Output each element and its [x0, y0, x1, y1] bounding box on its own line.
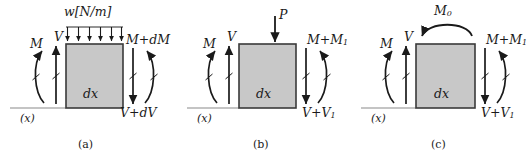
- right-moment-arc: [145, 51, 154, 103]
- element-length-label: dx: [256, 88, 271, 101]
- panel-b: P M V M+M1 V+V1 dx (x) (b): [177, 0, 353, 162]
- panel-a: w[N/m] M V M+dM V+dV dx (x) (a): [0, 0, 177, 162]
- distributed-load-arrows: [68, 27, 122, 41]
- left-shear-label: V: [227, 31, 236, 44]
- panel-caption-b: (b): [253, 138, 269, 151]
- right-shear-label: V+dV: [120, 107, 157, 120]
- right-moment-arc: [318, 51, 327, 103]
- left-moment-label: M: [30, 38, 43, 51]
- right-moment-label: M+M1: [486, 34, 527, 47]
- element-length-label: dx: [434, 88, 449, 101]
- applied-moment-label: M0: [434, 5, 452, 18]
- axis-label: (x): [371, 112, 386, 125]
- right-shear-label: V+V1: [302, 107, 336, 120]
- right-moment-label: M+M1: [307, 34, 348, 47]
- panel-caption-c: (c): [431, 138, 446, 151]
- left-shear-label: V: [404, 31, 413, 44]
- right-shear-label: V+V1: [481, 107, 515, 120]
- axis-label: (x): [197, 112, 212, 125]
- left-shear-label: V: [54, 31, 63, 44]
- left-moment-label: M: [203, 38, 216, 51]
- panel-caption-a: (a): [78, 138, 93, 151]
- applied-moment-arc: [422, 25, 472, 36]
- beam-element-figure: w[N/m] M V M+dM V+dV dx (x) (a): [0, 0, 529, 162]
- point-load-label: P: [279, 9, 287, 22]
- panel-c: M0 M V M+M1 V+V1 dx (x) (c): [353, 0, 529, 162]
- element-length-label: dx: [83, 88, 98, 101]
- left-moment-label: M: [380, 38, 393, 51]
- axis-label: (x): [20, 112, 35, 125]
- right-moment-label: M+dM: [126, 34, 170, 47]
- right-moment-arc: [497, 51, 506, 103]
- distributed-load-label: w[N/m]: [64, 6, 111, 19]
